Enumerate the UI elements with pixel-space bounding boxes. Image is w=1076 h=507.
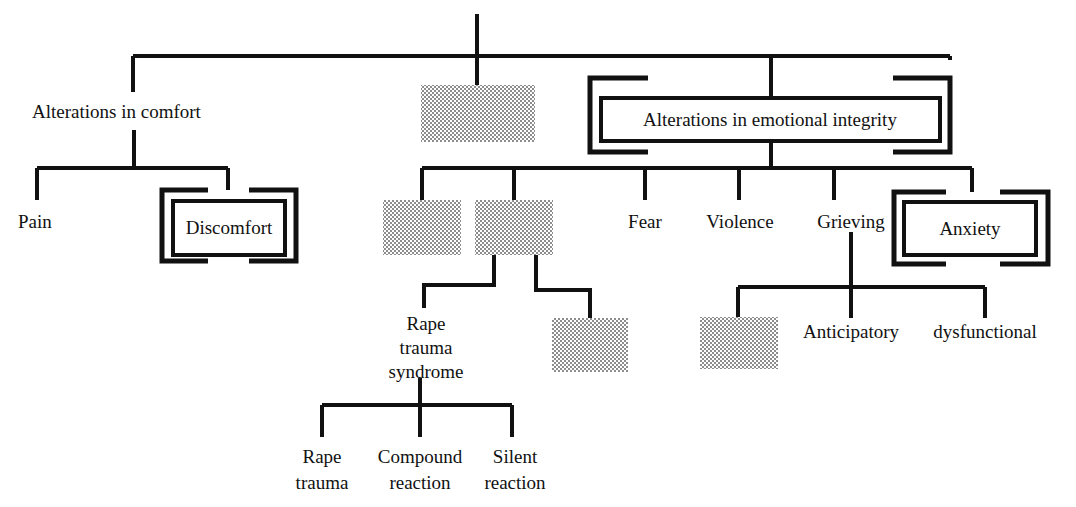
redacted-box-level2-b bbox=[475, 200, 553, 255]
node-label-anxiety: Anxiety bbox=[939, 218, 1001, 239]
connector-to-redacted-l3-right bbox=[536, 255, 590, 318]
node-label-silent-reaction-line2: reaction bbox=[484, 472, 546, 493]
node-label-rape-trauma-line1: Rape bbox=[302, 446, 341, 467]
node-silent-reaction: Silent reaction bbox=[484, 446, 546, 493]
node-label-compound-reaction-line1: Compound bbox=[378, 446, 463, 467]
node-label-fear: Fear bbox=[628, 211, 662, 232]
node-rape-trauma-syndrome: Rape trauma syndrome bbox=[389, 313, 464, 382]
node-label-violence: Violence bbox=[706, 211, 773, 232]
node-label-anticipatory: Anticipatory bbox=[803, 321, 900, 342]
node-label-compound-reaction-line2: reaction bbox=[389, 472, 451, 493]
node-label-rape-trauma-syndrome-line3: syndrome bbox=[389, 361, 464, 382]
node-label-rape-trauma-line2: trauma bbox=[296, 472, 349, 493]
node-label-silent-reaction-line1: Silent bbox=[493, 446, 538, 467]
redacted-box-top-center bbox=[421, 85, 535, 142]
node-label-dysfunctional: dysfunctional bbox=[933, 321, 1036, 342]
node-label-pain: Pain bbox=[18, 211, 52, 232]
node-anxiety[interactable]: Anxiety bbox=[894, 192, 1048, 264]
redacted-box-level2-a bbox=[383, 200, 461, 255]
node-label-alterations-in-emotional-integrity: Alterations in emotional integrity bbox=[643, 109, 897, 130]
node-label-alterations-in-comfort: Alterations in comfort bbox=[32, 101, 202, 122]
node-compound-reaction: Compound reaction bbox=[378, 446, 463, 493]
hierarchy-diagram: Alterations in emotional integrity Disco… bbox=[0, 0, 1076, 507]
node-label-discomfort: Discomfort bbox=[186, 217, 273, 238]
connector-to-rape-trauma-syndrome bbox=[424, 255, 494, 308]
node-label-grieving: Grieving bbox=[817, 211, 885, 232]
redacted-box-grieving-child bbox=[700, 317, 778, 369]
node-discomfort[interactable]: Discomfort bbox=[162, 190, 296, 261]
node-label-rape-trauma-syndrome-line2: trauma bbox=[400, 337, 453, 358]
node-label-rape-trauma-syndrome-line1: Rape bbox=[406, 313, 445, 334]
redacted-box-level3-right bbox=[552, 318, 628, 372]
node-rape-trauma: Rape trauma bbox=[296, 446, 349, 493]
